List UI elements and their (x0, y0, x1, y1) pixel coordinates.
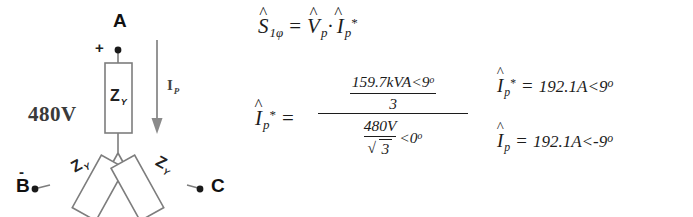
eq2-i-hat-symbol: ^I (255, 108, 262, 129)
root3-container: √3 (364, 137, 397, 158)
res1-value: 192.1A<9 (539, 77, 608, 96)
s-subscript: 1φ (269, 25, 284, 40)
node-label-a: A (113, 11, 127, 30)
phase-current-label: IP (167, 78, 179, 96)
s-hat-symbol: ^S (258, 16, 269, 37)
res1-degree: o (607, 77, 613, 90)
figure-root: A + B - C 480V ZY ZY ZY IP ^S 1φ= ^V p· … (0, 0, 693, 217)
terminal-dot-c (197, 186, 204, 193)
res2-degree: o (607, 132, 613, 145)
lead-bl-inner (113, 153, 118, 162)
numerator-upper-value: 159.7kVA<9o (318, 73, 468, 93)
radicand-value: 3 (379, 139, 393, 158)
compound-fraction: 159.7kVA<9o 3 480V √3 <0o (318, 73, 468, 158)
i-hat-symbol: ^I (333, 16, 344, 37)
result-phase-current-conjugate: ^I p*=192.1A<9o (497, 76, 613, 99)
current-arrow-head (152, 118, 163, 134)
apparent-power-value: 159.7kVA<9 (352, 73, 430, 90)
res2-i-hat-symbol: ^I (497, 131, 503, 150)
impedance-label-top: ZY (110, 88, 127, 107)
hat-accent-s: ^ (259, 4, 267, 21)
voltage-over-root3: 480V √3 (364, 117, 397, 158)
equation-phase-current-conjugate: ^I p*= (255, 108, 300, 131)
radical-icon: √ (368, 139, 377, 157)
node-label-c: C (211, 176, 225, 195)
denominator-angle-value: <0 (399, 129, 417, 146)
hat-accent-i2: ^ (255, 96, 263, 113)
res2-value: 192.1A<-9 (533, 132, 607, 151)
square-root-expression: √3 (368, 138, 393, 158)
equation-apparent-power: ^S 1φ= ^V p· ^I p* (258, 16, 358, 39)
impedance-subscript-top: Y (120, 97, 127, 107)
impedance-symbol-top: Z (110, 87, 120, 104)
hat-accent-v: ^ (309, 4, 317, 21)
denominator-angle: <0o (396, 129, 422, 147)
polarity-minus-b: - (19, 164, 24, 179)
phase-current-symbol: I (167, 77, 173, 93)
lead-b (38, 185, 50, 188)
phase-current-subscript: P (173, 86, 180, 96)
res1-equals: = (516, 75, 539, 96)
result-phase-current: ^I p=192.1A<-9o (497, 131, 613, 154)
terminal-dot-b (32, 186, 39, 193)
res1-i-hat-symbol: ^I (497, 76, 503, 95)
v-hat-symbol: ^V (307, 16, 320, 37)
polarity-plus-a: + (95, 40, 104, 55)
lead-c (187, 185, 198, 188)
lead-br-inner (118, 153, 123, 162)
line-voltage-label: 480V (28, 104, 77, 125)
fraction-denominator: 480V √3 <0o (318, 114, 468, 158)
hat-accent-res1: ^ (497, 65, 504, 80)
terminal-dot-a (115, 47, 122, 54)
denominator-angle-degree: o (418, 129, 423, 140)
wye-circuit-diagram: A + B - C 480V ZY ZY ZY IP (0, 0, 250, 217)
voltage-value: 480V (364, 117, 397, 136)
eq1-equals: = (283, 14, 307, 38)
eq2-i-subscript: p (262, 117, 270, 132)
numerator-lower-value: 3 (318, 94, 468, 113)
apparent-power-degree: o (429, 74, 434, 85)
fraction-numerator: 159.7kVA<9o 3 (318, 73, 468, 113)
eq2-equals: = (276, 106, 300, 130)
hat-accent-i: ^ (334, 4, 342, 21)
i-conjugate-star: * (351, 15, 358, 30)
hat-accent-res2: ^ (497, 120, 504, 135)
res2-equals: = (510, 130, 533, 151)
